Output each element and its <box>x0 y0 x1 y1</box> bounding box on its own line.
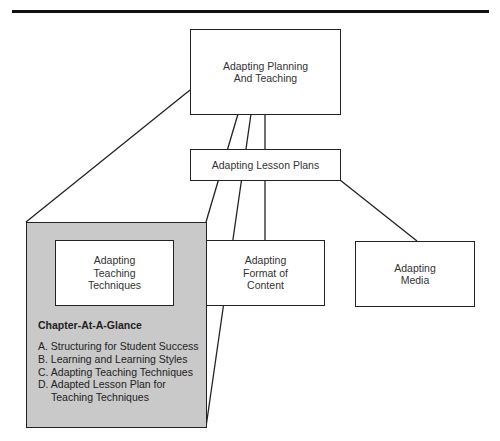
node-label: Adapting Lesson Plans <box>212 159 319 172</box>
node-label: Techniques <box>88 279 141 292</box>
node-adapting-planning-and-teaching: Adapting Planning And Teaching <box>190 29 341 115</box>
glance-item-text: D. Adapted Lesson Plan for <box>38 378 166 390</box>
node-label: Adapting <box>88 254 141 267</box>
glance-item-continuation: Teaching Techniques <box>38 391 199 404</box>
node-adapting-format-of-content: Adapting Format of Content <box>206 240 325 306</box>
glance-list: A. Structuring for Student Success B. Le… <box>38 340 199 404</box>
node-adapting-teaching-techniques: Adapting Teaching Techniques <box>55 240 174 306</box>
node-label: Adapting Planning <box>223 60 308 73</box>
node-label: Content <box>243 279 288 292</box>
glance-title: Chapter-At-A-Glance <box>38 319 199 331</box>
glance-item: D. Adapted Lesson Plan for Teaching Tech… <box>38 378 199 404</box>
glance-item: C. Adapting Teaching Techniques <box>38 366 199 379</box>
node-label: And Teaching <box>223 72 308 85</box>
node-label: Format of <box>243 267 288 280</box>
chapter-at-a-glance: Chapter-At-A-Glance A. Structuring for S… <box>38 319 199 404</box>
node-adapting-media: Adapting Media <box>355 241 475 307</box>
glance-item: B. Learning and Learning Styles <box>38 353 199 366</box>
node-label: Adapting <box>394 262 435 275</box>
node-label: Teaching <box>88 267 141 280</box>
node-label: Adapting <box>243 254 288 267</box>
glance-item: A. Structuring for Student Success <box>38 340 199 353</box>
node-adapting-lesson-plans: Adapting Lesson Plans <box>190 149 341 181</box>
node-label: Media <box>394 274 435 287</box>
